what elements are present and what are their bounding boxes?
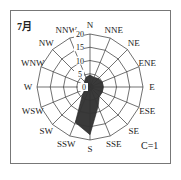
direction-label-w: W: [24, 82, 33, 92]
direction-label-ene: ENE: [139, 58, 157, 68]
direction-label-nne: NNE: [104, 25, 123, 35]
direction-label-s: S: [87, 144, 92, 154]
grid-spoke: [90, 50, 127, 87]
wind-rose-chart: NNNENEENEEESESESSESSSWSWWSWWWNWNWNNW0510…: [0, 0, 181, 180]
radial-tick-label: 5: [78, 70, 82, 79]
direction-label-ese: ESE: [139, 106, 156, 116]
radial-tick-label: 0: [82, 83, 86, 92]
direction-label-ne: NE: [128, 38, 140, 48]
direction-label-wsw: WSW: [22, 106, 45, 116]
direction-label-sw: SW: [39, 126, 53, 136]
radial-tick-label: 15: [76, 43, 84, 52]
direction-label-nw: NW: [39, 38, 54, 48]
radial-tick-label: 20: [76, 30, 84, 39]
direction-label-n: N: [87, 20, 94, 30]
direction-label-ssw: SSW: [57, 139, 76, 149]
direction-label-se: SE: [129, 126, 140, 136]
direction-label-wnw: WNW: [21, 58, 45, 68]
grid-spoke: [53, 50, 90, 87]
radial-tick-label: 10: [76, 57, 84, 66]
direction-label-sse: SSE: [106, 139, 122, 149]
direction-label-e: E: [149, 82, 155, 92]
